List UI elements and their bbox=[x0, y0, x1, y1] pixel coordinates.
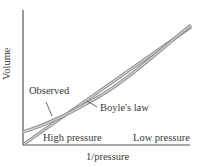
low-pressure-label: Low pressure bbox=[133, 133, 190, 144]
observed-pointer bbox=[46, 102, 52, 116]
observed-label: Observed bbox=[29, 86, 69, 97]
observed-line bbox=[23, 25, 191, 132]
x-axis-label: 1/pressure bbox=[86, 152, 129, 163]
y-axis-label: Volume bbox=[1, 48, 12, 80]
boyle-label: Boyle's law bbox=[100, 103, 149, 114]
high-pressure-label: High pressure bbox=[43, 133, 102, 144]
